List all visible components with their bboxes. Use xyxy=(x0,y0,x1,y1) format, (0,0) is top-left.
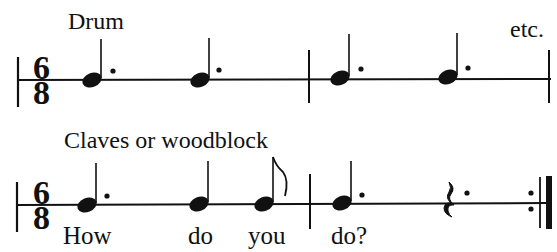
note-dotted-quarter xyxy=(188,38,221,90)
note-dotted-quarter xyxy=(80,39,115,90)
rhythm-score: Drum etc. 6 8 Claves or woodblock 6 8 Ho… xyxy=(0,0,557,252)
note-eighth xyxy=(252,157,286,214)
dotted-quarter-rest xyxy=(444,182,470,217)
note-dotted-quarter xyxy=(330,161,364,213)
note-quarter xyxy=(187,161,211,214)
staff-graphics xyxy=(0,0,557,252)
note-dotted-quarter xyxy=(75,163,109,215)
